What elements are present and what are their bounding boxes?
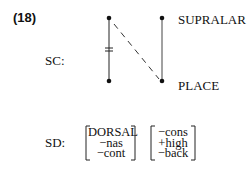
node — [160, 79, 165, 84]
node — [160, 16, 165, 21]
feature: −cont — [88, 148, 134, 159]
feature-matrix-1: DORSAL −nas −cont — [88, 127, 134, 159]
node — [107, 79, 112, 84]
feature-matrix-2: −cons +high −back — [153, 127, 193, 159]
sd-label: SD: — [45, 135, 65, 151]
node — [107, 16, 112, 21]
feature: −back — [153, 148, 193, 159]
